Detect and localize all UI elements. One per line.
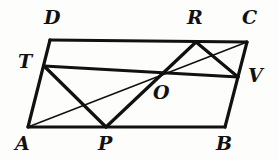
vertex-label-C: C: [242, 8, 257, 27]
vertex-label-D: D: [44, 8, 60, 27]
vertex-label-A: A: [15, 134, 30, 153]
vertex-label-V: V: [248, 66, 263, 85]
vertex-label-O: O: [153, 83, 170, 102]
segment-PR: [106, 42, 196, 127]
geometry-figure: D R C T V O A P B: [0, 0, 278, 161]
vertex-label-B: B: [216, 134, 232, 153]
segment-TV: [44, 66, 238, 77]
vertex-label-P: P: [98, 134, 112, 153]
side-CB: [225, 42, 247, 127]
figure-canvas: [0, 0, 278, 161]
vertex-label-T: T: [18, 52, 32, 71]
vertex-label-R: R: [187, 8, 203, 27]
side-DC: [50, 40, 247, 42]
segment-layer: [28, 40, 247, 127]
